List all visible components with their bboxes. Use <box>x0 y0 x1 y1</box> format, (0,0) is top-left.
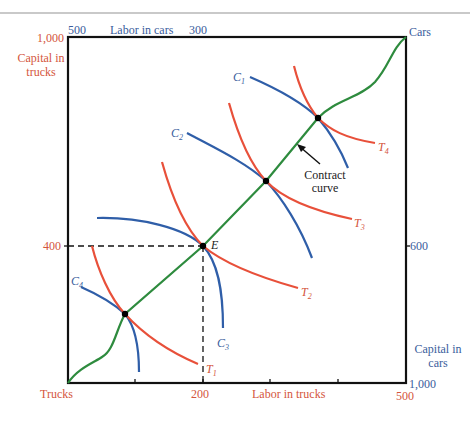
top-tick-500: 500 <box>68 23 86 37</box>
left-axis-label-line2: trucks <box>16 65 66 79</box>
isoquant-c1 <box>250 77 348 168</box>
contract-curve-arrow <box>297 144 320 164</box>
isoquant-c4 <box>81 287 139 372</box>
trucks-origin-label: Trucks <box>40 387 73 401</box>
c4-label: C4 <box>71 274 83 293</box>
t3-label: T3 <box>354 216 365 235</box>
bottom-tick-500: 500 <box>396 389 414 403</box>
e-guide-lines <box>68 246 203 383</box>
c2-label: C2 <box>171 126 183 145</box>
right-axis-label-line2: cars <box>406 356 470 370</box>
right-tick-600: 600 <box>410 239 428 253</box>
top-tick-300: 300 <box>189 23 207 37</box>
top-axis-label: Labor in cars <box>110 23 173 37</box>
point-e-label: E <box>211 238 218 252</box>
t2-label: T2 <box>301 285 312 304</box>
isoquant-t2 <box>162 162 298 288</box>
left-tick-1000: 1,000 <box>37 31 64 45</box>
left-axis-label-line1: Capital in <box>16 51 66 65</box>
contract-curve-label-line2: curve <box>295 181 355 195</box>
cars-origin-label: Cars <box>409 25 431 39</box>
contract-curve-label-line1: Contract <box>295 168 355 182</box>
edgeworth-box-diagram <box>0 0 470 423</box>
isoquant-c2 <box>187 133 312 258</box>
c3-label: C3 <box>217 336 229 355</box>
right-axis-label-line1: Capital in <box>406 342 470 356</box>
bottom-axis-label: Labor in trucks <box>252 387 325 401</box>
c1-label: C1 <box>233 70 245 89</box>
car-isoquants <box>81 77 348 372</box>
t1-label: T1 <box>206 362 217 381</box>
t4-label: T4 <box>378 140 389 159</box>
left-tick-400: 400 <box>43 239 61 253</box>
isoquant-c3 <box>97 218 223 328</box>
bottom-tick-200: 200 <box>191 387 209 401</box>
